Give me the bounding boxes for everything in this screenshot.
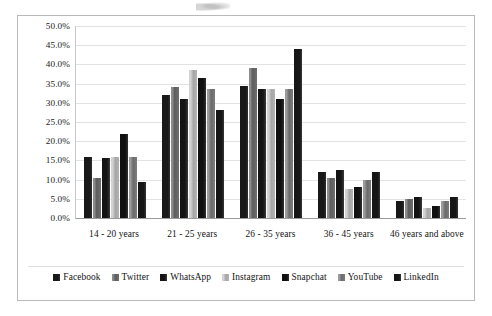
bar-facebook-3[interactable] [318, 172, 326, 218]
bar-snapchat-4[interactable] [432, 206, 440, 218]
bar-whatsapp-4[interactable] [414, 197, 422, 218]
legend-label: Instagram [232, 272, 270, 282]
legend-swatch-icon [338, 274, 345, 281]
bar-facebook-4[interactable] [396, 201, 404, 218]
bar-twitter-1[interactable] [171, 87, 179, 218]
x-axis-category-label: 14 - 20 years [75, 222, 153, 262]
legend-label: LinkedIn [404, 272, 439, 282]
bar-group [232, 26, 310, 218]
bar-whatsapp-3[interactable] [336, 170, 344, 218]
bar-instagram-4[interactable] [423, 208, 431, 218]
bar-instagram-1[interactable] [189, 70, 197, 218]
bar-snapchat-3[interactable] [354, 187, 362, 218]
bar-facebook-1[interactable] [162, 95, 170, 218]
legend-swatch-icon [112, 274, 119, 281]
bar-linkedin-2[interactable] [294, 49, 302, 218]
scan-artifact [196, 2, 230, 11]
bar-whatsapp-2[interactable] [258, 89, 266, 218]
bar-linkedin-4[interactable] [450, 197, 458, 218]
legend-label: Twitter [122, 272, 150, 282]
bar-facebook-0[interactable] [84, 157, 92, 218]
x-axis-category-label: 21 - 25 years [153, 222, 231, 262]
legend-swatch-icon [53, 274, 60, 281]
bar-group [388, 26, 466, 218]
legend-item-snapchat[interactable]: Snapchat [282, 272, 327, 282]
legend-item-whatsapp[interactable]: WhatsApp [160, 272, 211, 282]
bar-youtube-4[interactable] [441, 201, 449, 218]
legend-label: Facebook [63, 272, 100, 282]
bar-whatsapp-1[interactable] [180, 99, 188, 218]
y-axis-tick-label: 30.0% [46, 98, 70, 108]
bar-snapchat-0[interactable] [120, 134, 128, 218]
bar-youtube-0[interactable] [129, 157, 137, 218]
bar-youtube-2[interactable] [285, 89, 293, 218]
plot-wrapper: 0.0%5.0%10.0%15.0%20.0%25.0%30.0%35.0%40… [18, 16, 474, 234]
chart-legend: FacebookTwitterWhatsAppInstagramSnapchat… [18, 272, 474, 282]
y-axis-tick-label: 40.0% [46, 59, 70, 69]
bar-twitter-0[interactable] [93, 178, 101, 218]
legend-label: WhatsApp [170, 272, 211, 282]
legend-swatch-icon [282, 274, 289, 281]
bar-twitter-4[interactable] [405, 199, 413, 218]
bar-youtube-1[interactable] [207, 89, 215, 218]
bar-twitter-3[interactable] [327, 178, 335, 218]
y-axis-tick-label: 15.0% [46, 155, 70, 165]
bar-instagram-2[interactable] [267, 89, 275, 218]
bar-snapchat-2[interactable] [276, 99, 284, 218]
legend-item-facebook[interactable]: Facebook [53, 272, 100, 282]
legend-label: YouTube [348, 272, 383, 282]
legend-item-instagram[interactable]: Instagram [222, 272, 270, 282]
bar-snapchat-1[interactable] [198, 78, 206, 218]
x-axis: 14 - 20 years21 - 25 years26 - 35 years3… [75, 222, 466, 262]
legend-item-linkedin[interactable]: LinkedIn [394, 272, 439, 282]
bar-facebook-2[interactable] [240, 86, 248, 218]
bar-linkedin-1[interactable] [216, 110, 224, 218]
bar-twitter-2[interactable] [249, 68, 257, 218]
y-axis-tick-label: 35.0% [46, 79, 70, 89]
y-axis-tick-label: 25.0% [46, 117, 70, 127]
x-axis-category-label: 46 years and above [388, 222, 466, 262]
y-axis-tick-label: 50.0% [46, 21, 70, 31]
bar-group [310, 26, 388, 218]
bar-linkedin-0[interactable] [138, 182, 146, 218]
bar-group [154, 26, 232, 218]
legend-item-twitter[interactable]: Twitter [112, 272, 150, 282]
y-axis: 0.0%5.0%10.0%15.0%20.0%25.0%30.0%35.0%40… [18, 16, 75, 234]
x-axis-category-label: 36 - 45 years [310, 222, 388, 262]
legend-swatch-icon [160, 274, 167, 281]
plot-area [75, 26, 466, 219]
legend-divider [28, 266, 464, 267]
legend-swatch-icon [394, 274, 401, 281]
bar-youtube-3[interactable] [363, 180, 371, 218]
bar-whatsapp-0[interactable] [102, 158, 110, 218]
y-axis-tick-label: 20.0% [46, 136, 70, 146]
bars-layer [76, 26, 466, 218]
legend-item-youtube[interactable]: YouTube [338, 272, 383, 282]
bar-group [76, 26, 154, 218]
bar-linkedin-3[interactable] [372, 172, 380, 218]
chart-container: 0.0%5.0%10.0%15.0%20.0%25.0%30.0%35.0%40… [17, 15, 475, 301]
legend-swatch-icon [222, 274, 229, 281]
legend-label: Snapchat [292, 272, 327, 282]
y-axis-tick-label: 10.0% [46, 175, 70, 185]
y-axis-tick-label: 0.0% [50, 213, 70, 223]
bar-instagram-3[interactable] [345, 189, 353, 218]
y-axis-tick-label: 5.0% [50, 194, 70, 204]
y-axis-tick-label: 45.0% [46, 40, 70, 50]
bar-instagram-0[interactable] [111, 157, 119, 218]
x-axis-category-label: 26 - 35 years [231, 222, 309, 262]
